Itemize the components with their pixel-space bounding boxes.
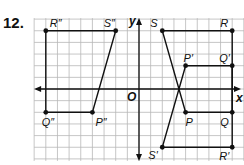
vertex-label: R″ bbox=[50, 17, 63, 29]
origin-label: O bbox=[127, 90, 137, 104]
y-axis-arrow-down-icon bbox=[136, 154, 142, 161]
vertex-point bbox=[160, 28, 165, 33]
axes: x y O bbox=[34, 14, 244, 161]
figure-image-double-prime: P″Q″R″S″ bbox=[42, 17, 118, 129]
x-axis-label: x bbox=[235, 91, 244, 105]
vertex-point bbox=[230, 28, 235, 33]
figure-image-prime: P′Q′R′S′ bbox=[148, 52, 234, 163]
vertex-label: S″ bbox=[104, 17, 116, 29]
coordinate-diagram: 12. x y O PQRSP′Q′R′S′P″Q″R″S″ bbox=[0, 0, 244, 165]
vertex-label: S′ bbox=[148, 149, 158, 161]
vertex-label: R bbox=[220, 17, 228, 29]
vertex-point bbox=[230, 63, 235, 68]
figure-original: PQRS bbox=[150, 17, 234, 129]
vertex-label: Q″ bbox=[42, 116, 56, 128]
vertex-point bbox=[90, 110, 95, 115]
vertex-point bbox=[183, 63, 188, 68]
vertex-point bbox=[230, 145, 235, 150]
problem-number: 12. bbox=[3, 14, 24, 31]
vertex-label: P′ bbox=[184, 52, 194, 64]
vertex-label: P bbox=[186, 116, 194, 128]
vertex-label: R′ bbox=[219, 150, 230, 162]
y-axis-label: y bbox=[128, 14, 137, 28]
vertex-label: S bbox=[150, 17, 158, 29]
vertex-point bbox=[113, 28, 118, 33]
vertex-label: Q′ bbox=[219, 52, 231, 64]
x-axis-arrow-left-icon bbox=[34, 86, 41, 92]
vertex-point bbox=[160, 145, 165, 150]
vertex-point bbox=[183, 110, 188, 115]
vertex-point bbox=[43, 110, 48, 115]
vertex-label: Q bbox=[220, 116, 229, 128]
vertex-point bbox=[43, 28, 48, 33]
vertex-label: P″ bbox=[95, 116, 107, 128]
